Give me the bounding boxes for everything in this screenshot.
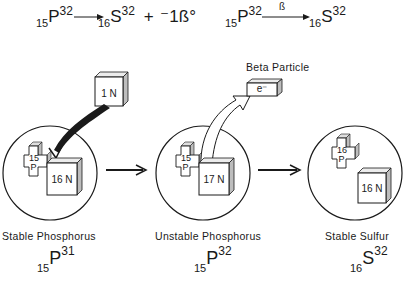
neutron-count: 16 N	[358, 183, 386, 194]
emission-arrow-icon	[201, 96, 250, 165]
isotope-notation-p31: 15P31	[37, 248, 75, 269]
electron-label: e⁻	[247, 83, 277, 94]
caption-stable-sulfur: Stable Sulfur	[325, 230, 389, 242]
arrow-right-icon	[258, 165, 300, 175]
caption-unstable-phosphorus: Unstable Phosphorus	[155, 230, 261, 242]
neutron-count: 17 N	[199, 174, 229, 185]
proton-count: 16 P	[337, 146, 346, 164]
proton-count: 15 P	[181, 154, 190, 172]
capture-arrow-icon	[54, 104, 110, 153]
beta-particle-title: Beta Particle	[246, 61, 309, 73]
isotope-notation-s32: 16S32	[350, 248, 388, 269]
isotope-notation-p32: 15P32	[194, 248, 232, 269]
arrow-right-icon	[106, 165, 146, 175]
incoming-neutron-label: 1 N	[95, 88, 123, 99]
neutron-count: 16 N	[47, 174, 77, 185]
proton-count: 15 P	[29, 154, 38, 172]
caption-stable-phosphorus: Stable Phosphorus	[2, 230, 96, 242]
